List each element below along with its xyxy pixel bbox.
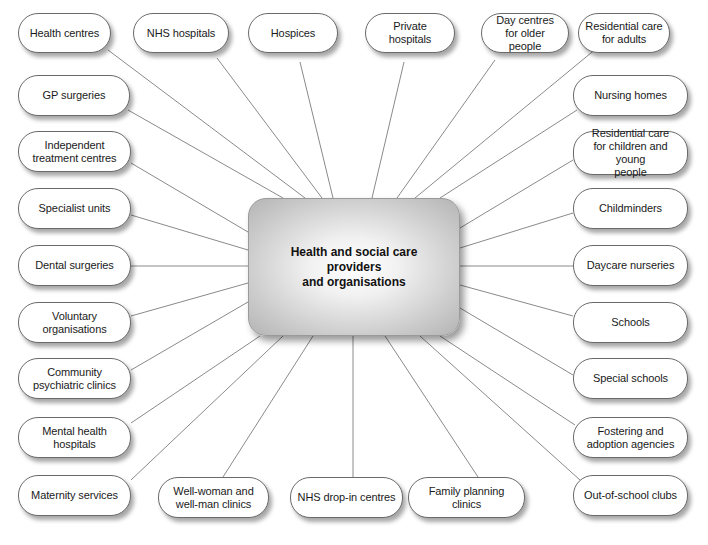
node-nhs-hospitals: NHS hospitals	[133, 13, 229, 53]
connector-nursing-homes	[440, 110, 577, 198]
node-label: Daycare nurseries	[587, 259, 675, 272]
connector-fostering-adoption	[440, 336, 575, 425]
node-label: Mental health hospitals	[42, 425, 107, 451]
node-label: Independent treatment centres	[33, 139, 117, 165]
connector-out-of-school-clubs	[420, 336, 580, 480]
node-health-centres: Health centres	[18, 13, 111, 53]
node-residential-care-adults: Residential care for adults	[578, 13, 670, 53]
node-mental-health-hospitals: Mental health hospitals	[18, 417, 131, 458]
node-dental-surgeries: Dental surgeries	[18, 245, 131, 286]
node-nhs-drop-in-centres: NHS drop-in centres	[290, 477, 403, 518]
node-label: Hospices	[271, 27, 315, 40]
connector-nhs-hospitals	[217, 58, 322, 198]
node-label: NHS hospitals	[147, 27, 215, 40]
node-maternity-services: Maternity services	[18, 475, 131, 516]
connector-hospices	[300, 62, 333, 198]
node-specialist-units: Specialist units	[18, 188, 131, 229]
connector-schools	[460, 285, 573, 316]
node-well-woman-clinics: Well-woman and well-man clinics	[158, 477, 269, 518]
node-family-planning-clinics: Family planning clinics	[408, 477, 525, 518]
node-label: Day centres for older people	[488, 14, 562, 53]
node-independent-treatment-centres: Independent treatment centres	[18, 131, 131, 172]
node-label: Residential care for adults	[585, 20, 662, 46]
node-day-centres: Day centres for older people	[481, 13, 569, 53]
connector-day-centres	[397, 60, 495, 198]
node-label: Childminders	[599, 202, 662, 215]
connector-mental-health-hospitals	[131, 336, 260, 423]
node-label: Special schools	[593, 372, 668, 385]
connector-specialist-units	[131, 215, 248, 250]
node-label: Private hospitals	[372, 20, 448, 46]
mind-map-diagram: Health and social care providers and org…	[0, 0, 708, 545]
node-label: Dental surgeries	[35, 259, 114, 272]
node-childminders: Childminders	[573, 188, 688, 229]
central-topic-label: Health and social care providers and org…	[291, 245, 418, 290]
node-schools: Schools	[573, 302, 688, 343]
node-gp-surgeries: GP surgeries	[18, 75, 130, 116]
node-label: Specialist units	[39, 202, 111, 215]
node-label: Health centres	[30, 27, 100, 40]
connector-voluntary-organisations	[131, 283, 248, 316]
node-label: Nursing homes	[594, 89, 667, 102]
connector-family-planning-clinics	[385, 336, 478, 477]
node-label: Community psychiatric clinics	[33, 366, 116, 392]
node-label: Maternity services	[31, 489, 118, 502]
node-label: Well-woman and well-man clinics	[173, 485, 253, 511]
node-community-psychiatric-clinics: Community psychiatric clinics	[18, 358, 131, 399]
node-fostering-adoption: Fostering and adoption agencies	[573, 417, 688, 458]
connector-private-hospitals	[372, 62, 404, 198]
connector-special-schools	[460, 308, 573, 375]
node-daycare-nurseries: Daycare nurseries	[573, 245, 688, 286]
node-label: Schools	[611, 316, 649, 329]
node-hospices: Hospices	[248, 13, 338, 53]
node-voluntary-organisations: Voluntary organisations	[18, 302, 131, 343]
connector-well-woman-clinics	[223, 336, 313, 477]
node-label: Family planning clinics	[415, 485, 518, 511]
node-label: Fostering and adoption agencies	[587, 425, 675, 451]
connector-community-psychiatric-clinics	[131, 302, 248, 370]
central-topic-box: Health and social care providers and org…	[248, 198, 460, 336]
node-special-schools: Special schools	[573, 358, 688, 399]
node-label: Residential care for children and young …	[580, 127, 681, 179]
connector-health-centres	[108, 50, 305, 198]
node-residential-care-children: Residential care for children and young …	[573, 131, 688, 175]
node-label: Out-of-school clubs	[584, 489, 677, 502]
node-out-of-school-clubs: Out-of-school clubs	[573, 475, 688, 516]
connector-residential-care-adults	[415, 48, 597, 198]
connector-independent-treatment-centres	[131, 163, 248, 232]
node-private-hospitals: Private hospitals	[365, 13, 455, 53]
node-nursing-homes: Nursing homes	[573, 75, 688, 116]
node-label: GP surgeries	[43, 89, 106, 102]
node-label: Voluntary organisations	[42, 310, 106, 336]
node-label: NHS drop-in centres	[298, 491, 396, 504]
